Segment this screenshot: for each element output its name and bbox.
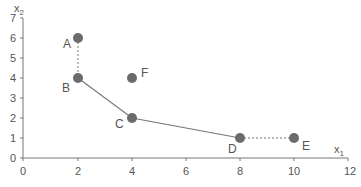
y-tick-label: 4 bbox=[10, 72, 16, 84]
x-tick-label: 6 bbox=[183, 165, 189, 177]
point-f bbox=[127, 73, 137, 83]
point-label-f: F bbox=[141, 66, 148, 80]
frontier-chart: 0 1 2 3 4 5 6 7 0 2 4 6 8 10 12 x2 x1 bbox=[0, 0, 361, 187]
x-tick-label: 8 bbox=[237, 165, 243, 177]
point-c bbox=[127, 113, 137, 123]
y-tick-label: 5 bbox=[10, 52, 16, 64]
x-tick-label: 4 bbox=[129, 165, 135, 177]
y-tick-label: 2 bbox=[10, 112, 16, 124]
point-label-c: C bbox=[115, 117, 124, 131]
x-tick-labels: 0 2 4 6 8 10 12 bbox=[20, 165, 356, 177]
y-tick-label: 0 bbox=[10, 152, 16, 164]
point-b bbox=[73, 73, 83, 83]
y-tick-label: 1 bbox=[10, 132, 16, 144]
x-tick-label: 0 bbox=[20, 165, 26, 177]
x-axis-label: x1 bbox=[334, 143, 345, 158]
point-label-b: B bbox=[62, 81, 70, 95]
point-label-e: E bbox=[302, 139, 310, 153]
point-label-d: D bbox=[228, 142, 237, 156]
point-e bbox=[289, 133, 299, 143]
data-points bbox=[73, 33, 299, 143]
x-tick-label: 2 bbox=[75, 165, 81, 177]
point-label-a: A bbox=[63, 37, 71, 51]
x-tick-label: 10 bbox=[288, 165, 300, 177]
frontier-line bbox=[78, 78, 240, 138]
y-tick-label: 3 bbox=[10, 92, 16, 104]
x-tick-label: 12 bbox=[344, 165, 356, 177]
point-a bbox=[73, 33, 83, 43]
y-tick-labels: 0 1 2 3 4 5 6 7 bbox=[10, 12, 16, 164]
y-tick-label: 6 bbox=[10, 32, 16, 44]
